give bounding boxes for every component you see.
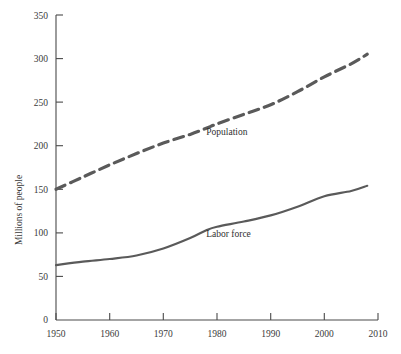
series-line-population	[56, 54, 367, 189]
x-tick-label-2010: 2010	[369, 329, 388, 339]
line-chart-figure: Millions of people 350 300 250 200 150 1…	[0, 0, 401, 354]
x-tick-label-1960: 1960	[100, 329, 119, 339]
series-line-labor-force	[56, 186, 367, 265]
series-label-population: Population	[206, 127, 247, 137]
y-tick-label-300: 300	[34, 54, 49, 64]
x-tick-label-1990: 1990	[261, 329, 280, 339]
series-label-labor-force: Labor force	[206, 229, 251, 239]
y-axis-title: Millions of people	[14, 175, 24, 245]
y-tick-label-250: 250	[34, 98, 49, 108]
y-tick-label-150: 150	[34, 185, 49, 195]
y-tick-label-200: 200	[34, 141, 49, 151]
y-tick-label-100: 100	[34, 228, 49, 238]
chart-plot-area: Millions of people 350 300 250 200 150 1…	[0, 0, 401, 354]
x-tick-label-1950: 1950	[47, 329, 66, 339]
x-tick-label-1970: 1970	[154, 329, 173, 339]
y-tick-label-0: 0	[43, 315, 48, 325]
x-tick-label-1980: 1980	[208, 329, 227, 339]
y-tick-label-350: 350	[34, 11, 49, 21]
x-tick-label-2000: 2000	[315, 329, 334, 339]
y-tick-label-50: 50	[39, 272, 49, 282]
